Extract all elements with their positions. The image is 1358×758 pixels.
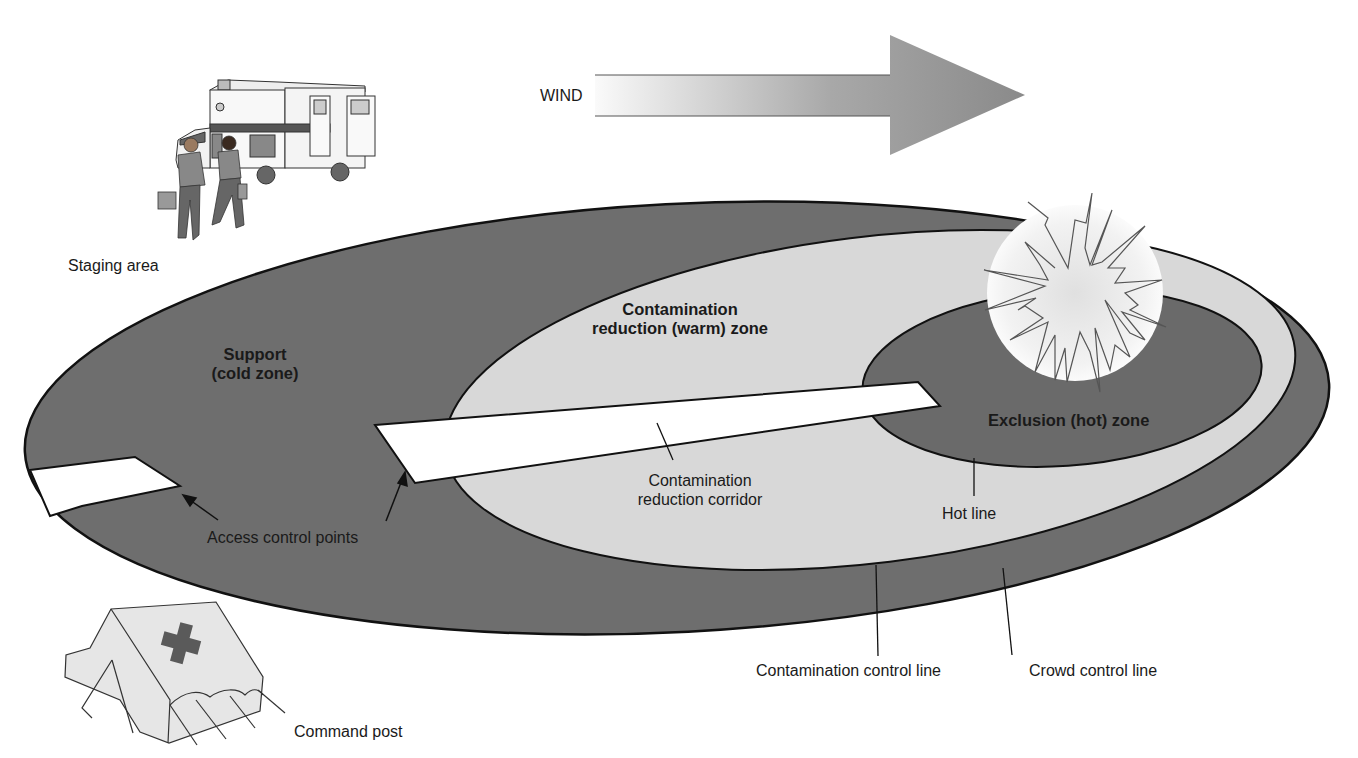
wind-arrow-icon [595,35,1025,155]
corridor-label-line2: reduction corridor [605,490,795,509]
hot-line-label: Hot line [942,504,996,523]
staging-area-label: Staging area [68,256,159,275]
warm-zone-label-line2: reduction (warm) zone [560,319,800,338]
access-control-points-label: Access control points [207,528,358,547]
ambulance-icon [176,80,375,184]
contamination-control-line-label: Contamination control line [756,661,941,680]
hazmat-zone-diagram: WIND Staging area Support (cold zone) Co… [0,0,1358,758]
crowd-control-line-label: Crowd control line [1029,661,1157,680]
warm-zone-label: Contamination reduction (warm) zone [560,300,800,338]
corridor-label-line1: Contamination [605,471,795,490]
cold-zone-label-line2: (cold zone) [180,364,330,383]
cold-zone-label: Support (cold zone) [180,345,330,383]
corridor-label: Contamination reduction corridor [605,471,795,509]
command-post-label: Command post [294,722,403,741]
hot-zone-label: Exclusion (hot) zone [988,411,1149,430]
cold-zone-label-line1: Support [180,345,330,364]
wind-label: WIND [540,86,583,105]
warm-zone-label-line1: Contamination [560,300,800,319]
command-tent-icon [65,602,285,745]
